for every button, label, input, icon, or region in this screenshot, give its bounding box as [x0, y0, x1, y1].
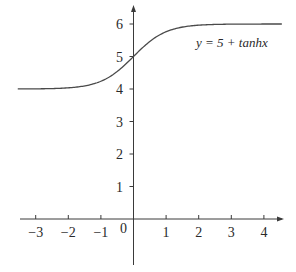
axis-ticks: −3−2−101234123456 [28, 17, 267, 240]
function-annotation: y = 5 + tanhx [194, 35, 268, 50]
y-tick-label: 5 [116, 50, 123, 65]
y-tick-label: 4 [116, 82, 123, 97]
chart-figure: −3−2−101234123456 y = 5 + tanhx [0, 0, 296, 272]
x-axis-arrow-icon [277, 217, 284, 222]
y-axis-arrow-icon [131, 5, 136, 12]
y-tick-label: 1 [116, 180, 123, 195]
x-tick-label: 0 [120, 221, 127, 236]
chart-canvas: −3−2−101234123456 y = 5 + tanhx [0, 0, 296, 272]
y-tick-label: 6 [116, 17, 123, 32]
x-tick-label: 4 [260, 225, 267, 240]
x-tick-label: −3 [28, 225, 43, 240]
y-tick-label: 3 [116, 115, 123, 130]
y-tick-label: 2 [116, 147, 123, 162]
x-tick-label: 1 [163, 225, 170, 240]
x-tick-label: −2 [61, 225, 76, 240]
x-tick-label: 3 [228, 225, 235, 240]
x-tick-label: −1 [93, 225, 108, 240]
x-tick-label: 2 [195, 225, 202, 240]
tanh-curve [18, 24, 282, 89]
